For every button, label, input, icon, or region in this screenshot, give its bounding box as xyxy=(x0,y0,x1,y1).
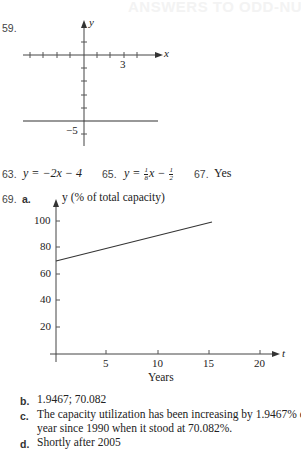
x-tick-5: 5 xyxy=(103,357,109,369)
part-d-label: d. xyxy=(20,438,29,450)
y-tick-80: 80 xyxy=(40,240,51,252)
graph59-x-label: x xyxy=(164,47,169,59)
part-d-text: Shortly after 2005 xyxy=(37,436,121,448)
y-tick-60: 60 xyxy=(40,267,51,279)
graph59-y-label: y xyxy=(89,16,94,28)
answer-65-number: 65. xyxy=(102,168,117,180)
y-tick-100: 100 xyxy=(34,214,51,226)
graph59-y-tick-label: −5 xyxy=(66,124,78,136)
chart69-y-label: y (% of total capacity) xyxy=(62,191,165,203)
part-b-text: 1.9467; 70.082 xyxy=(37,393,106,405)
answer-67-text: Yes xyxy=(214,166,231,181)
y-tick-20: 20 xyxy=(40,320,51,332)
answer-65-text: y = 18x − 12 xyxy=(124,166,174,182)
part-c-line1: The capacity utilization has been increa… xyxy=(37,408,301,420)
y-tick-40: 40 xyxy=(40,293,51,305)
part-a-label: a. xyxy=(22,193,31,205)
answer-67-number: 67. xyxy=(194,168,209,180)
part-c-line2: year since 1990 when it stood at 70.082%… xyxy=(37,422,232,434)
answer-63-number: 63. xyxy=(2,168,17,180)
part-c-label: c. xyxy=(20,410,29,422)
graph59-x-tick-label: 3 xyxy=(120,58,126,70)
chart69-x-label: Years xyxy=(148,371,174,383)
chart69-t-symbol: t xyxy=(282,347,285,359)
x-tick-10: 10 xyxy=(152,357,163,369)
problem-69-number: 69. xyxy=(2,193,17,205)
problem-59-graph xyxy=(0,0,301,459)
x-tick-20: 20 xyxy=(254,357,265,369)
part-b-label: b. xyxy=(20,395,29,407)
x-tick-15: 15 xyxy=(203,357,214,369)
answer-63-text: y = −2x − 4 xyxy=(23,166,82,181)
